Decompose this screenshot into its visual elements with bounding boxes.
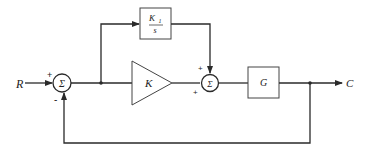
input-label-r: R	[15, 77, 24, 91]
integral-denominator: s	[153, 26, 156, 35]
sum2-left-plus-sign: +	[193, 88, 198, 97]
sum2-top-plus-sign: +	[198, 64, 203, 73]
block-diagram: R Σ + - K 1 s K Σ + + G C	[0, 0, 367, 150]
integral-numerator-subscript: 1	[159, 18, 162, 24]
sigma-symbol-2: Σ	[206, 79, 213, 89]
summing-junction-1: Σ	[53, 74, 71, 92]
gain-label: K	[144, 77, 153, 89]
sigma-symbol-1: Σ	[58, 78, 65, 89]
output-label-c: C	[346, 77, 354, 89]
plant-label: G	[260, 77, 267, 88]
integral-block: K 1 s	[140, 8, 171, 39]
gain-block: K	[132, 61, 172, 105]
sum1-plus-sign: +	[47, 70, 52, 80]
sum1-minus-sign: -	[54, 94, 57, 105]
plant-block: G	[248, 67, 279, 98]
integral-numerator: K	[148, 13, 156, 23]
integral-output-line	[171, 24, 210, 73]
summing-junction-2: Σ	[202, 75, 219, 92]
